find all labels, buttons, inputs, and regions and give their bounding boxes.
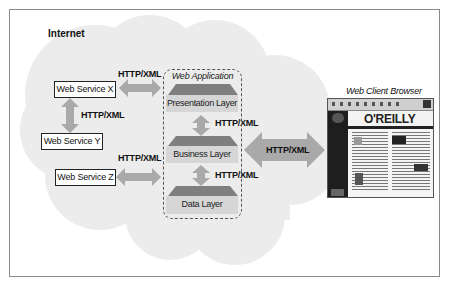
internet-label: Internet (48, 28, 85, 39)
web-application-container (163, 69, 242, 219)
web-service-x: Web Service X (54, 81, 116, 98)
presentation-layer: Presentation Layer (166, 98, 238, 108)
browser-toolbar (328, 99, 433, 111)
browser-screenshot: O'REILLY (327, 98, 434, 198)
label-x-y: HTTP/XML (81, 110, 124, 120)
browser-title: Web Client Browser (346, 86, 422, 96)
oreilly-logo: O'REILLY (364, 112, 415, 126)
web-service-y: Web Service Y (41, 133, 103, 150)
data-layer: Data Layer (166, 199, 238, 209)
browser-sidebar (328, 111, 348, 198)
label-x-app: HTTP/XML (118, 69, 161, 79)
web-application-title: Web Application (163, 71, 242, 81)
label-z-app: HTTP/XML (118, 153, 161, 163)
business-layer: Business Layer (166, 149, 238, 159)
label-app-browser: HTTP/XML (266, 145, 309, 155)
web-service-z: Web Service Z (55, 169, 116, 186)
